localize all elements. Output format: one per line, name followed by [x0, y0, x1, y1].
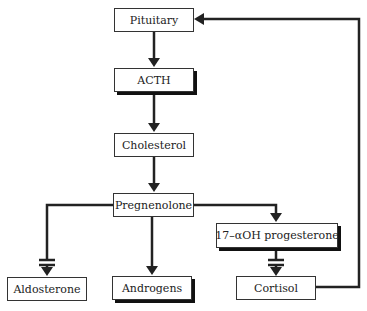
node-androgens: Androgens	[112, 276, 192, 300]
node-label: Pituitary	[130, 14, 178, 27]
node-cholesterol: Cholesterol	[114, 133, 194, 157]
arrow-pregnenolone-17oh	[193, 205, 276, 214]
node-label: Cortisol	[254, 282, 298, 295]
node-pituitary: Pituitary	[114, 8, 194, 32]
node-label: 17–αOH progesterone	[215, 229, 339, 242]
node-label: ACTH	[137, 74, 170, 87]
node-aldosterone: Aldosterone	[7, 277, 87, 301]
node-acth: ACTH	[114, 68, 194, 92]
node-label: Pregnenolone	[115, 199, 192, 212]
node-17-alpha-oh-progesterone: 17–αOH progesterone	[216, 223, 338, 248]
arrow-pregnenolone-aldosterone	[47, 205, 113, 259]
node-label: Aldosterone	[13, 283, 80, 296]
node-label: Androgens	[122, 282, 182, 295]
node-cortisol: Cortisol	[236, 276, 316, 300]
node-pregnenolone: Pregnenolone	[113, 193, 194, 217]
node-label: Cholesterol	[122, 139, 186, 152]
